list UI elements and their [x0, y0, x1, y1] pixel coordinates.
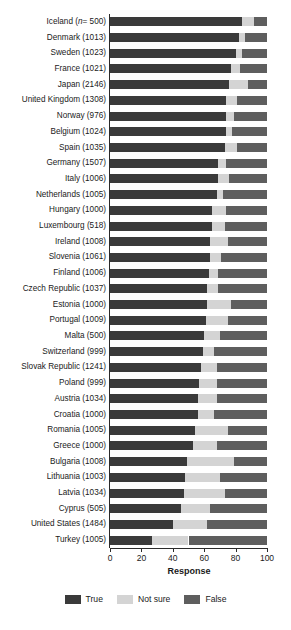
bar-segment-true: [110, 504, 181, 513]
category-label: Sweden (1023): [0, 48, 106, 57]
bar-segment-true: [110, 143, 225, 152]
category-label: Japan (2146): [0, 80, 106, 89]
bar-segment-true: [110, 49, 236, 58]
bar-segment-false: [217, 363, 267, 372]
bar-row: [110, 426, 267, 435]
bar-row: [110, 489, 267, 498]
bar-segment-false: [217, 441, 267, 450]
bar-row: [110, 379, 267, 388]
bar-segment-not-sure: [195, 426, 228, 435]
bar-segment-not-sure: [187, 457, 234, 466]
category-label: Lithuania (1003): [0, 472, 106, 481]
category-label: Bulgaria (1008): [0, 457, 106, 466]
bar-segment-true: [110, 426, 195, 435]
bar-segment-false: [214, 410, 267, 419]
x-tick-label: 20: [126, 553, 156, 564]
category-label: Portugal (1009): [0, 315, 106, 324]
bar-segment-false: [242, 49, 267, 58]
bar-segment-false: [220, 473, 267, 482]
bar-segment-not-sure: [204, 331, 220, 340]
bar-row: [110, 473, 267, 482]
bar-segment-not-sure: [173, 520, 208, 529]
bar-row: [110, 331, 267, 340]
bar-row: [110, 410, 267, 419]
bar-segment-true: [110, 253, 210, 262]
bar-segment-false: [221, 253, 267, 262]
bar-segment-false: [229, 174, 267, 183]
stacked-bar-chart: Iceland (n= 500)Denmark (1013)Sweden (10…: [0, 0, 291, 630]
category-label: Finland (1006): [0, 268, 106, 277]
x-tick-label: 60: [189, 553, 219, 564]
category-label: Estonia (1000): [0, 300, 106, 309]
x-tick-label: 0: [95, 553, 125, 564]
x-axis-title: Response: [110, 566, 268, 576]
x-tick-mark: [267, 548, 268, 552]
bar-segment-true: [110, 64, 231, 73]
legend-item: False: [184, 594, 226, 604]
x-tick-label: 40: [158, 553, 188, 564]
bar-segment-false: [228, 316, 267, 325]
bar-segment-not-sure: [226, 96, 237, 105]
category-label: Iceland (n= 500): [0, 17, 106, 26]
category-label: Greece (1000): [0, 441, 106, 450]
bar-segment-false: [228, 426, 267, 435]
legend-label: True: [86, 594, 103, 604]
bar-segment-false: [240, 64, 267, 73]
bar-row: [110, 206, 267, 215]
bar-segment-false: [220, 331, 267, 340]
bar-segment-not-sure: [210, 253, 221, 262]
bar-segment-true: [110, 457, 187, 466]
bar-segment-false: [218, 269, 267, 278]
bar-segment-false: [248, 80, 267, 89]
bar-segment-true: [110, 331, 204, 340]
bar-row: [110, 143, 267, 152]
bar-row: [110, 112, 267, 121]
bar-row: [110, 520, 267, 529]
bar-row: [110, 174, 267, 183]
x-tick-mark: [141, 548, 142, 552]
bar-segment-false: [254, 17, 267, 26]
category-label: Cyprus (505): [0, 504, 106, 513]
category-label: Czech Republic (1037): [0, 284, 106, 293]
category-label: Slovenia (1061): [0, 252, 106, 261]
bar-rows: [110, 14, 267, 548]
bar-segment-true: [110, 269, 209, 278]
bar-row: [110, 284, 267, 293]
bar-segment-true: [110, 347, 203, 356]
category-label: France (1021): [0, 64, 106, 73]
bar-segment-not-sure: [218, 174, 229, 183]
bar-segment-true: [110, 206, 212, 215]
bar-row: [110, 80, 267, 89]
bar-segment-true: [110, 300, 207, 309]
bar-row: [110, 347, 267, 356]
bar-segment-false: [237, 96, 267, 105]
bar-segment-not-sure: [210, 237, 227, 246]
bar-segment-false: [237, 143, 267, 152]
category-label: Belgium (1024): [0, 127, 106, 136]
category-label: Germany (1507): [0, 158, 106, 167]
bar-row: [110, 457, 267, 466]
bar-segment-not-sure: [212, 222, 225, 231]
bar-segment-false: [210, 504, 267, 513]
bar-segment-not-sure: [207, 300, 231, 309]
category-label: Denmark (1013): [0, 33, 106, 42]
bar-segment-false: [228, 237, 267, 246]
legend-label: Not sure: [138, 594, 170, 604]
bar-segment-false: [234, 457, 267, 466]
bar-segment-not-sure: [218, 159, 226, 168]
bar-segment-true: [110, 80, 229, 89]
bar-segment-false: [245, 33, 267, 42]
bar-segment-not-sure: [201, 363, 217, 372]
bar-segment-true: [110, 190, 217, 199]
x-axis-line: [110, 548, 268, 549]
bar-segment-not-sure: [242, 17, 255, 26]
category-axis-labels: Iceland (n= 500)Denmark (1013)Sweden (10…: [0, 14, 106, 548]
category-label: Italy (1006): [0, 174, 106, 183]
category-label: Luxembourg (518): [0, 221, 106, 230]
bar-segment-false: [234, 112, 267, 121]
legend-swatch-icon: [184, 595, 200, 604]
category-label: Netherlands (1005): [0, 190, 106, 199]
bar-segment-false: [225, 222, 267, 231]
bar-segment-true: [110, 379, 199, 388]
bar-segment-not-sure: [203, 347, 214, 356]
